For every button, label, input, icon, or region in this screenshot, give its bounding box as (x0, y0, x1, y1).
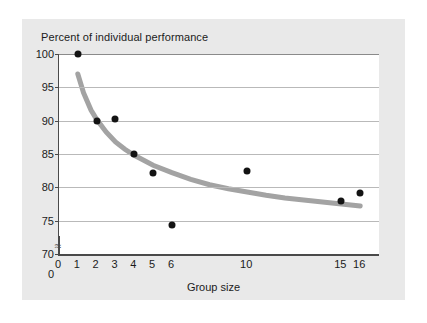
x-axis-title: Group size (22, 281, 405, 293)
x-axis-tick-labels: 0123456101516 (22, 258, 405, 276)
gridline (59, 121, 379, 122)
data-point (93, 117, 100, 124)
gridline (59, 54, 379, 55)
y-tick-label: 95 (42, 81, 54, 93)
data-point (338, 197, 345, 204)
x-tick-label: 2 (93, 258, 99, 270)
data-point (112, 115, 119, 122)
x-tick-label: 10 (240, 258, 252, 270)
data-point (150, 169, 157, 176)
y-tick-label: 75 (42, 215, 54, 227)
x-axis-line (58, 254, 379, 256)
chart-figure: Percent of individual performance 070758… (22, 19, 405, 300)
gridline (59, 221, 379, 222)
x-tick-label: 3 (111, 258, 117, 270)
x-tick-label: 0 (55, 258, 61, 270)
data-point (357, 189, 364, 196)
y-tick-mark (55, 221, 59, 222)
y-tick-mark (55, 187, 59, 188)
y-tick-label: 90 (42, 115, 54, 127)
x-tick-label: 15 (334, 258, 346, 270)
data-point (131, 151, 138, 158)
y-axis-tick-labels: 0707580859095100 (22, 19, 54, 279)
data-point (168, 222, 175, 229)
gridline (59, 87, 379, 88)
x-tick-label: 1 (74, 258, 80, 270)
y-tick-label: 100 (36, 48, 54, 60)
y-tick-mark (55, 121, 59, 122)
data-point (244, 167, 251, 174)
y-tick-mark (55, 154, 59, 155)
gridline (59, 187, 379, 188)
y-tick-label: 80 (42, 181, 54, 193)
y-tick-mark (55, 54, 59, 55)
x-tick-label: 5 (149, 258, 155, 270)
data-point (74, 51, 81, 58)
y-tick-mark (55, 87, 59, 88)
x-tick-label: 4 (130, 258, 136, 270)
chart-title: Percent of individual performance (41, 31, 208, 43)
axis-break-icon: ≈ (52, 239, 64, 253)
gridline (59, 154, 379, 155)
plot-area (58, 54, 379, 254)
x-tick-label: 16 (353, 258, 365, 270)
x-tick-label: 6 (168, 258, 174, 270)
y-tick-label: 85 (42, 148, 54, 160)
